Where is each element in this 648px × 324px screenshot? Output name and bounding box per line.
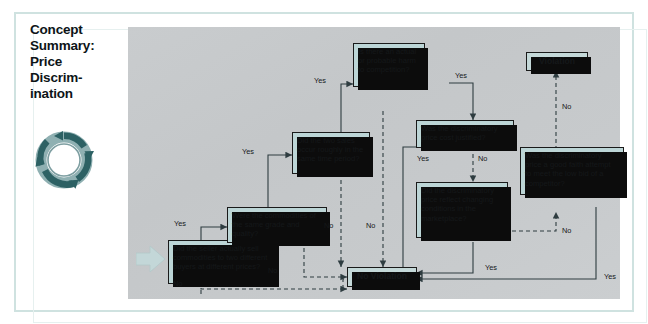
edge-label-q6-yes: Yes — [485, 263, 497, 272]
node-q3[interactable]: Did the two sales occur roughly in the s… — [292, 132, 370, 174]
edge-label-q5-yes: Yes — [417, 154, 429, 163]
node-q1[interactable]: Did the seller actually sell commodities… — [168, 240, 276, 284]
node-q2[interactable]: Were the commodities of the same grade a… — [227, 207, 327, 243]
title-line-4: Discrim- — [30, 70, 126, 86]
title-line-3: Price — [30, 54, 126, 70]
title-line-2: Summary: — [30, 38, 126, 54]
screenshot-root: Concept Summary: Price Discrim- ination — [0, 0, 648, 324]
edge-label-q1-no: No — [173, 279, 182, 288]
edge-label-q5-no: No — [478, 154, 487, 163]
node-q3-label: Did the two sales occur roughly in the s… — [297, 136, 363, 163]
edge-label-q4-no: No — [366, 221, 375, 230]
flowchart-canvas: Did the seller actually sell commodities… — [128, 27, 620, 299]
edge-label-q6-no: No — [562, 226, 571, 235]
page-title: Concept Summary: Price Discrim- ination — [30, 22, 126, 102]
edge-label-q7-no: No — [562, 102, 571, 111]
node-violation-label: Violation — [539, 57, 575, 66]
edge-label-q7-yes: Yes — [604, 272, 616, 281]
entry-arrow-icon — [136, 245, 166, 273]
node-violation[interactable]: Violation — [526, 52, 588, 71]
edge-q6-no — [512, 212, 556, 231]
edge-label-q2-no: No — [268, 266, 277, 275]
edge-q6-yes-a — [420, 242, 473, 273]
node-q6[interactable]: Did the discriminatory price reflect cha… — [416, 182, 508, 238]
title-line-5: ination — [30, 86, 126, 102]
edge-label-q1-yes: Yes — [174, 219, 186, 228]
edge-q2-yes — [268, 155, 292, 209]
edge-q4-yes — [449, 83, 473, 120]
edge-label-q2-yes: Yes — [242, 147, 254, 156]
edge-label-q3-yes: Yes — [314, 76, 326, 85]
node-no-violation-label: No Violation — [357, 272, 407, 281]
edge-label-q4-yes: Yes — [455, 71, 467, 80]
node-q4[interactable]: Is there an actual or probable harm to c… — [353, 43, 425, 87]
node-q1-label: Did the seller actually sell commodities… — [173, 244, 267, 271]
node-q7[interactable]: Was the discriminatory price a good fait… — [520, 147, 624, 195]
title-line-1: Concept — [30, 22, 126, 38]
title-panel: Concept Summary: Price Discrim- ination — [30, 22, 126, 222]
node-q4-label: Is there an actual or probable harm to c… — [358, 47, 416, 74]
node-no-violation[interactable]: No Violation — [347, 267, 417, 287]
edge-label-q3-no: No — [324, 221, 333, 230]
circular-arrows-icon — [32, 130, 96, 190]
node-q5[interactable]: Was the discriminatory price cost justif… — [416, 120, 514, 148]
